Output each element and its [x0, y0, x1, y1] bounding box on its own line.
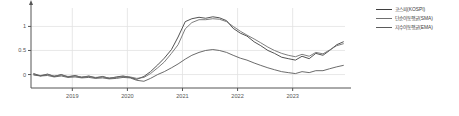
legend-swatch-icon: [376, 18, 392, 19]
legend-swatch-icon: [376, 27, 392, 28]
svg-text:2021: 2021: [176, 93, 188, 99]
legend-item[interactable]: 지수이동평균(EMA): [376, 24, 433, 31]
chart-figure: 00.5120192020202120222023 코스피(KOSPI)단순이동…: [0, 0, 459, 116]
legend-item[interactable]: 코스피(KOSPI): [376, 6, 433, 13]
svg-text:2019: 2019: [66, 93, 78, 99]
svg-text:2022: 2022: [231, 93, 243, 99]
svg-text:0.5: 0.5: [18, 47, 26, 53]
legend-swatch-icon: [376, 9, 392, 10]
legend-item-label: 단순이동평균(SMA): [395, 15, 433, 22]
svg-text:0: 0: [23, 72, 26, 78]
legend-item-label: 지수이동평균(EMA): [395, 24, 433, 31]
svg-text:2023: 2023: [286, 93, 298, 99]
legend-item-label: 코스피(KOSPI): [395, 6, 425, 13]
chart-legend: 코스피(KOSPI)단순이동평균(SMA)지수이동평균(EMA): [376, 6, 433, 31]
svg-text:2020: 2020: [121, 93, 133, 99]
legend-item[interactable]: 단순이동평균(SMA): [376, 15, 433, 22]
svg-text:1: 1: [23, 23, 26, 29]
series-line: [34, 19, 344, 79]
